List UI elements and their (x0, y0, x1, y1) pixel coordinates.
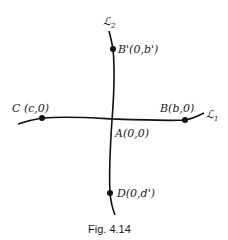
label-a: A(0,0) (114, 127, 149, 140)
figure-caption: Fig. 4.14 (88, 223, 131, 235)
line-l1-label: ℒ1 (206, 108, 218, 123)
curve-l2 (109, 31, 115, 215)
label-d: D(0,d') (116, 187, 155, 200)
label-c: C (c,0) (12, 102, 49, 115)
point-b-prime (110, 46, 116, 52)
diagram-canvas: ℒ2 ℒ1 B'(0,b') C (c,0) B(b,0) A(0,0) D(0… (0, 0, 228, 240)
point-b (182, 117, 188, 123)
point-c (39, 115, 45, 121)
label-b: B(b,0) (159, 102, 194, 115)
point-d (107, 190, 113, 196)
label-b-prime: B'(0,b') (117, 43, 158, 56)
line-l2-label: ℒ2 (103, 15, 116, 30)
